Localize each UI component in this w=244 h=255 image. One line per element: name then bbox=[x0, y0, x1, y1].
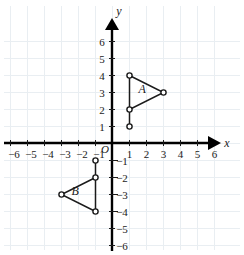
y-tick-label-neg2: −2 bbox=[116, 172, 128, 184]
y-tick-label-2: 2 bbox=[99, 104, 105, 116]
vertex-point bbox=[127, 124, 132, 129]
vertex-point bbox=[93, 158, 98, 163]
shape-label-b: B bbox=[71, 184, 79, 198]
x-tick-label-neg2: −2 bbox=[76, 148, 88, 160]
y-tick-label-6: 6 bbox=[99, 36, 105, 48]
x-tick-label-4: 4 bbox=[178, 148, 184, 160]
y-tick-label-neg1: −1 bbox=[116, 155, 128, 167]
y-tick-label-1: 1 bbox=[99, 121, 105, 133]
y-tick-labels-positive: 6 5 4 3 2 1 bbox=[99, 36, 105, 133]
x-tick-label-neg3: −3 bbox=[59, 148, 71, 160]
y-tick-label-neg3: −3 bbox=[116, 189, 128, 201]
y-tick-labels-negative: −1 −2 −3 −4 −5 −6 bbox=[116, 155, 128, 252]
y-tick-label-3: 3 bbox=[99, 87, 105, 99]
x-tick-label-3: 3 bbox=[161, 148, 167, 160]
vertex-point bbox=[93, 209, 98, 214]
x-tick-label-2: 2 bbox=[144, 148, 150, 160]
vertex-point bbox=[93, 175, 98, 180]
y-axis-label: y bbox=[115, 4, 122, 18]
y-tick-label-neg6: −6 bbox=[116, 240, 128, 252]
vertex-point bbox=[127, 73, 132, 78]
x-tick-label-5: 5 bbox=[195, 148, 201, 160]
x-tick-label-neg4: −4 bbox=[42, 148, 54, 160]
y-tick-label-neg4: −4 bbox=[116, 206, 128, 218]
x-axis-label: x bbox=[223, 136, 230, 150]
y-tick-label-5: 5 bbox=[99, 53, 105, 65]
x-tick-label-neg5: −5 bbox=[25, 148, 37, 160]
vertex-point bbox=[127, 107, 132, 112]
y-tick-label-neg5: −5 bbox=[116, 223, 128, 235]
vertex-point bbox=[161, 90, 166, 95]
coordinate-plane-figure: x y O −6 −5 −4 −3 −2 bbox=[0, 0, 244, 255]
x-tick-label-6: 6 bbox=[212, 148, 218, 160]
y-axis-arrowhead bbox=[105, 18, 119, 30]
y-tick-label-4: 4 bbox=[99, 70, 105, 82]
shape-label-a: A bbox=[138, 82, 147, 96]
x-tick-label-neg6: −6 bbox=[8, 148, 20, 160]
plot-canvas: x y O −6 −5 −4 −3 −2 bbox=[0, 0, 244, 255]
vertex-point bbox=[59, 192, 64, 197]
